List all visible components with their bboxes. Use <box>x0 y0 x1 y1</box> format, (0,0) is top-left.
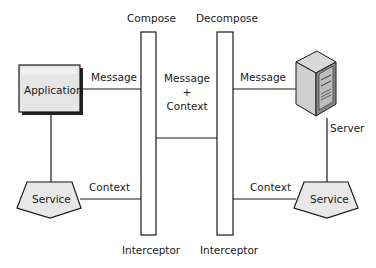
edge-label-right-context: Context <box>250 181 291 193</box>
service-left-label: Service <box>32 193 71 205</box>
server-label: Server <box>330 122 364 134</box>
edge-label-plus: + <box>160 86 214 98</box>
decompose-interceptor-caption: Interceptor <box>200 244 258 256</box>
compose-interceptor-caption: Interceptor <box>122 244 180 256</box>
edge-label-context: Context <box>160 100 214 112</box>
diagram-canvas <box>0 0 376 268</box>
decompose-interceptor-bar <box>217 32 233 235</box>
edge-label-left-context: Context <box>89 181 130 193</box>
decompose-title: Decompose <box>196 12 258 24</box>
compose-title: Compose <box>127 12 176 24</box>
edge-label-message: Message <box>160 72 214 84</box>
edge-label-app-message: Message <box>91 71 137 83</box>
edge-label-server-message: Message <box>240 71 286 83</box>
server-icon <box>296 51 336 116</box>
service-right-label: Service <box>310 193 349 205</box>
compose-interceptor-bar <box>141 32 156 235</box>
application-label: Application <box>24 84 83 96</box>
